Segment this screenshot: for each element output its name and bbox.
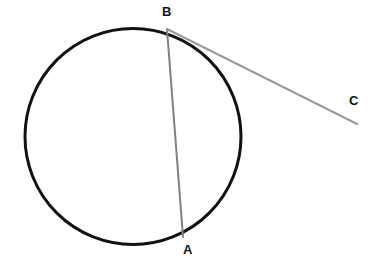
point-label-a: A [183,243,192,256]
point-label-b: B [162,5,171,18]
chord-line-ba [167,29,183,237]
tangent-line-bc [167,29,357,124]
circle-shape [25,29,241,245]
geometry-canvas [0,0,376,275]
point-label-c: C [349,94,358,107]
geometry-figure: B A C [0,0,376,275]
